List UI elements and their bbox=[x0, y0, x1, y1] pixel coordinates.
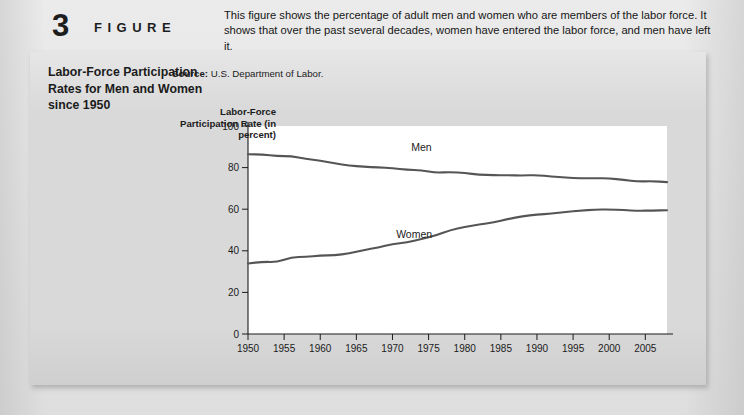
figure-description: This figure shows the percentage of adul… bbox=[224, 8, 714, 54]
chart-svg: 020406080100 195019551960196519701975198… bbox=[220, 122, 680, 372]
x-tick-label: 1960 bbox=[309, 343, 332, 354]
y-axis-ticks: 020406080100 bbox=[222, 121, 248, 340]
y-tick-label: 40 bbox=[228, 245, 240, 256]
x-tick-label: 2005 bbox=[634, 343, 657, 354]
figure-word-label: FIGURE bbox=[94, 20, 176, 35]
x-axis-ticks: 1950195519601965197019751980198519901995… bbox=[237, 334, 657, 354]
line-chart: Labor-Force Participation Rate (in perce… bbox=[220, 122, 680, 372]
x-tick-label: 1970 bbox=[381, 343, 404, 354]
x-tick-label: 1955 bbox=[273, 343, 296, 354]
source-label: Source: bbox=[172, 68, 208, 79]
series-line-men bbox=[248, 154, 667, 182]
x-tick-label: 1985 bbox=[490, 343, 513, 354]
y-tick-label: 20 bbox=[228, 287, 240, 298]
y-tick-label: 60 bbox=[228, 204, 240, 215]
figure-panel: Labor-Force Participation Rates for Men … bbox=[30, 52, 706, 385]
series-line-women bbox=[248, 209, 667, 263]
data-series-group bbox=[248, 154, 667, 263]
x-tick-label: 1995 bbox=[562, 343, 585, 354]
y-tick-label: 0 bbox=[233, 329, 239, 340]
x-tick-label: 1975 bbox=[417, 343, 440, 354]
source-text: U.S. Department of Labor. bbox=[211, 68, 324, 79]
series-annotations: MenWomen bbox=[396, 141, 432, 240]
x-tick-label: 1965 bbox=[345, 343, 368, 354]
figure-number: 3 bbox=[52, 10, 69, 41]
x-tick-label: 1980 bbox=[454, 343, 477, 354]
series-label-men: Men bbox=[411, 141, 432, 153]
y-tick-label: 80 bbox=[228, 162, 240, 173]
source-note: Source: U.S. Department of Labor. bbox=[172, 68, 642, 79]
x-tick-label: 1990 bbox=[526, 343, 549, 354]
x-tick-label: 1950 bbox=[237, 343, 260, 354]
y-tick-label: 100 bbox=[222, 121, 239, 132]
series-label-women: Women bbox=[396, 228, 432, 240]
x-tick-label: 2000 bbox=[598, 343, 621, 354]
